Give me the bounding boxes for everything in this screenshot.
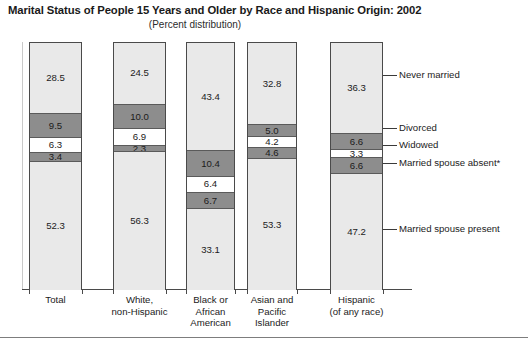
bar-segment: 36.3 [331, 43, 382, 133]
bar-segment-value: 6.3 [49, 140, 62, 150]
bar-segment-value: 9.5 [49, 121, 62, 131]
bar-segment-value: 4.2 [265, 137, 278, 146]
series-callout: Never married [383, 69, 460, 81]
stacked-bar: 36.36.63.36.647.2 [330, 42, 383, 289]
bar-segment-value: 33.1 [201, 245, 220, 255]
bar-segment: 52.3 [30, 161, 81, 290]
callout-leader-line [383, 229, 397, 230]
x-axis-tick [186, 289, 187, 294]
x-axis-category-label: Hispanic(of any race) [312, 294, 401, 317]
bar-segment-value: 32.8 [263, 79, 282, 89]
x-axis-category-label: Total [11, 294, 100, 306]
bar-segment: 6.6 [331, 133, 382, 149]
bar-segment-value: 3.4 [49, 152, 62, 160]
bar-segment: 4.6 [248, 147, 296, 158]
bar-segment: 53.3 [248, 158, 296, 290]
bar-segment: 6.9 [114, 128, 165, 145]
x-axis-category-line: (of any race) [312, 306, 401, 318]
bar-segment-value: 6.4 [204, 179, 217, 189]
bar-segment-value: 10.0 [130, 112, 149, 122]
series-callout: Married spouse present [383, 223, 500, 235]
bar-segment-value: 53.3 [263, 220, 282, 230]
bar-segment: 6.4 [187, 176, 234, 192]
bar-segment: 6.6 [331, 157, 382, 173]
x-axis-tick [297, 289, 298, 294]
callout-label: Married spouse present [399, 224, 500, 234]
callout-label: Widowed [399, 140, 438, 150]
callout-label: Married spouse absent* [399, 158, 500, 168]
bar-segment: 10.0 [114, 104, 165, 129]
bar-segment-value: 28.5 [46, 73, 65, 83]
series-callout: Married spouse absent* [383, 157, 500, 169]
bar-segment: 56.3 [114, 151, 165, 290]
x-axis-tick [82, 289, 83, 294]
bar-segment-value: 47.2 [347, 227, 366, 237]
callout-leader-line [383, 145, 397, 146]
plot-left-rule [22, 42, 23, 289]
bar-segment: 9.5 [30, 113, 81, 136]
series-callout: Divorced [383, 122, 437, 134]
bar-segment-value: 5.0 [265, 126, 278, 136]
bar-segment: 33.1 [187, 208, 234, 290]
stacked-bar: 28.59.56.33.452.3 [29, 42, 82, 289]
x-axis-tick [113, 289, 114, 294]
bar-segment-value: 3.3 [350, 149, 363, 157]
bar-segment: 3.4 [30, 152, 81, 160]
x-axis-category-line: Asian and [229, 294, 315, 306]
bar-segment-value: 6.7 [204, 196, 217, 206]
bar-segment: 28.5 [30, 43, 81, 113]
stacked-bar: 43.410.46.46.733.1 [186, 42, 235, 289]
bar-segment: 4.2 [248, 136, 296, 146]
x-axis-tick [383, 289, 384, 294]
callout-leader-line [383, 163, 397, 164]
figure-bottom-rule [0, 337, 528, 338]
bar-segment-value: 52.3 [46, 221, 65, 231]
callout-leader-line [383, 75, 397, 76]
callout-label: Divorced [399, 123, 437, 133]
x-axis-tick [247, 289, 248, 294]
x-axis-category-label: Asian andPacificIslander [229, 294, 315, 329]
series-callout: Widowed [383, 139, 438, 151]
stacked-bar: 24.510.06.92.356.3 [113, 42, 166, 289]
x-axis-category-line: Pacific [229, 306, 315, 318]
plot-area: 28.59.56.33.452.3Total24.510.06.92.356.3… [0, 0, 528, 346]
bar-segment: 3.3 [331, 149, 382, 157]
bar-segment-value: 6.6 [350, 161, 363, 171]
x-axis-category-line: Hispanic [312, 294, 401, 306]
bar-segment-value: 36.3 [347, 83, 366, 93]
bar-segment-value: 24.5 [130, 68, 149, 78]
bar-segment: 6.3 [30, 137, 81, 153]
bar-segment: 32.8 [248, 43, 296, 124]
bar-segment-value: 10.4 [201, 159, 220, 169]
bar-segment-value: 4.6 [265, 148, 278, 158]
bar-segment-value: 6.9 [133, 132, 146, 142]
bar-segment: 6.7 [187, 192, 234, 209]
x-axis-category-line: Total [11, 294, 100, 306]
bar-segment-value: 43.4 [201, 92, 220, 102]
bar-segment: 5.0 [248, 124, 296, 136]
bar-segment: 43.4 [187, 43, 234, 150]
bar-segment-value: 56.3 [130, 216, 149, 226]
bar-segment-value: 6.6 [350, 137, 363, 147]
callout-leader-line [383, 128, 397, 129]
x-axis-tick [166, 289, 167, 294]
chart-figure: Marital Status of People 15 Years and Ol… [0, 0, 528, 346]
callout-label: Never married [399, 70, 460, 80]
x-axis-tick [29, 289, 30, 294]
stacked-bar: 32.85.04.24.653.3 [247, 42, 297, 289]
bar-segment: 47.2 [331, 173, 382, 290]
x-axis-category-line: Islander [229, 317, 315, 329]
bar-segment: 24.5 [114, 43, 165, 104]
x-axis-tick [330, 289, 331, 294]
bar-segment: 10.4 [187, 150, 234, 176]
